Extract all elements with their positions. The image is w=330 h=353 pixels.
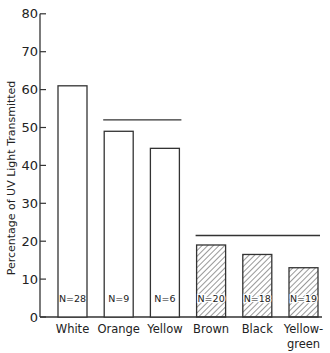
bar-white: N=28White <box>56 86 89 336</box>
y-tick-label: 10 <box>21 272 38 287</box>
y-tick-label: 80 <box>21 6 38 21</box>
n-label: N=28 <box>59 293 86 304</box>
n-label: N=9 <box>108 293 129 304</box>
n-label: N=19 <box>290 293 317 304</box>
x-tick-label: green <box>287 337 320 351</box>
x-tick-label: Brown <box>193 322 229 336</box>
x-tick-label: Orange <box>97 322 140 336</box>
bar-orange: N=9Orange <box>97 131 140 336</box>
annotations <box>103 120 320 236</box>
y-tick-label: 50 <box>21 120 38 135</box>
bar-yellow: N=6Yellow <box>146 148 182 336</box>
x-tick-label: Black <box>242 322 273 336</box>
bar-yellow-green: N=19Yellow-green <box>283 268 324 351</box>
n-label: N=6 <box>154 293 175 304</box>
y-tick-label: 30 <box>21 196 38 211</box>
y-tick-label: 0 <box>30 310 38 325</box>
uv-transmission-bar-chart: 01020304050607080 N=28WhiteN=9OrangeN=6Y… <box>0 0 330 353</box>
bars: N=28WhiteN=9OrangeN=6YellowN=20BrownN=18… <box>56 86 324 351</box>
y-tick-label: 70 <box>21 44 38 59</box>
y-tick-label: 20 <box>21 234 38 249</box>
n-label: N=18 <box>244 293 271 304</box>
y-axis-label: Percentage of UV Light Transmitted <box>5 81 18 276</box>
x-tick-label: Yellow- <box>283 322 324 336</box>
bar-brown: N=20Brown <box>193 245 229 336</box>
x-tick-label: Yellow <box>146 322 182 336</box>
n-label: N=20 <box>198 293 225 304</box>
bar-black: N=18Black <box>242 254 273 336</box>
y-tick-label: 40 <box>21 158 38 173</box>
y-tick-label: 60 <box>21 82 38 97</box>
x-tick-label: White <box>56 322 89 336</box>
